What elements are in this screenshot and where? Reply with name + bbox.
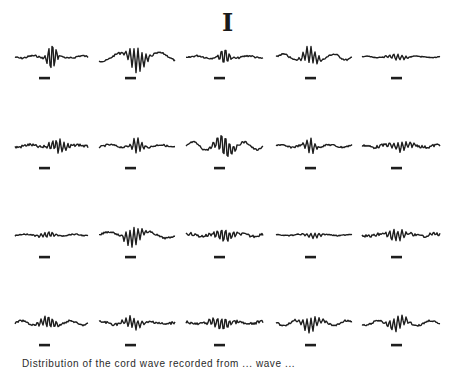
waveform-trace <box>276 233 352 238</box>
scale-bar <box>214 77 225 80</box>
waveform-trace <box>362 54 440 60</box>
scale-bar <box>391 167 402 170</box>
waveform-trace <box>276 47 352 64</box>
scale-bar <box>39 167 50 170</box>
scale-bar <box>305 256 316 259</box>
waveform-trace <box>276 138 352 153</box>
waveform-trace <box>186 136 263 156</box>
scale-bar <box>305 344 316 347</box>
waveform-trace <box>99 138 175 153</box>
waveform-trace <box>15 139 88 153</box>
waveform-trace <box>15 316 88 327</box>
scale-bar <box>214 167 225 170</box>
waveform-trace <box>186 230 263 241</box>
scale-bar <box>391 344 402 347</box>
waveform-trace <box>15 46 88 67</box>
waveform-trace <box>186 50 263 62</box>
waveform-trace <box>15 232 88 237</box>
waveform-trace <box>99 316 175 330</box>
waveform-trace <box>362 142 440 153</box>
scale-bar <box>214 256 225 259</box>
scale-bar <box>391 256 402 259</box>
waveform-trace <box>362 229 440 240</box>
scale-bar <box>39 256 50 259</box>
scale-bar <box>214 344 225 347</box>
scale-bar <box>305 77 316 80</box>
scale-bar <box>125 77 136 80</box>
scale-bar <box>305 167 316 170</box>
waveform-trace <box>276 317 352 333</box>
scale-bar <box>125 344 136 347</box>
figure-caption: Distribution of the cord wave recorded f… <box>22 358 452 367</box>
scale-bar <box>39 77 50 80</box>
scale-bar <box>125 167 136 170</box>
waveform-trace <box>99 48 175 72</box>
waveform-trace <box>99 228 175 248</box>
waveform-trace <box>362 315 440 332</box>
waveform-trace <box>186 318 263 329</box>
waveform-grid <box>0 0 455 367</box>
scale-bar <box>125 256 136 259</box>
scale-bar <box>39 344 50 347</box>
scale-bar <box>391 77 402 80</box>
